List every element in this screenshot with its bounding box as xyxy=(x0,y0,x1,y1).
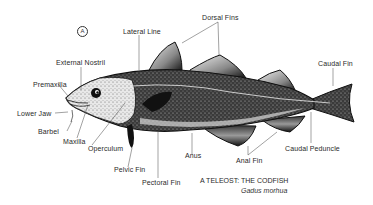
label-anus: Anus xyxy=(185,152,201,159)
label-premaxilla: Premaxilla xyxy=(33,81,67,88)
caption-scientific-name: Gadus morhua xyxy=(241,187,287,194)
label-dorsal-fins: Dorsal Fins xyxy=(202,14,239,21)
caudal-fin-shape xyxy=(310,84,354,122)
label-caudal-fin: Caudal Fin xyxy=(318,60,353,67)
label-external-nostril: External Nostril xyxy=(56,59,105,66)
fish-head xyxy=(66,77,136,124)
label-pelvic-fin: Pelvic Fin xyxy=(114,166,145,173)
codfish-illustration xyxy=(0,0,373,205)
label-lower-jaw: Lower Jaw xyxy=(17,110,51,117)
label-caudal-peduncle: Caudal Peduncle xyxy=(285,145,340,152)
codfish-diagram: A Lateral Line Dorsal Fins Caudal Fin Ex… xyxy=(0,0,373,205)
label-barbel: Barbel xyxy=(38,128,59,135)
caption-title: A TELEOST: THE CODFISH xyxy=(200,177,288,184)
figure-marker: A xyxy=(77,26,88,37)
first-dorsal-fin xyxy=(148,42,182,72)
label-operculum: Operculum xyxy=(88,145,123,152)
label-pectoral-fin: Pectoral Fin xyxy=(142,179,181,186)
label-maxilla: Maxilla xyxy=(63,138,85,145)
label-lateral-line: Lateral Line xyxy=(123,28,161,35)
label-anal-fin: Anal Fin xyxy=(236,157,262,164)
